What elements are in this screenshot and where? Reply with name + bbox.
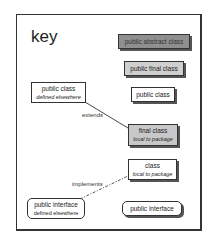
- public-interface-box: public interface: [122, 201, 182, 216]
- public-abstract-class-label: public abstract class: [125, 38, 184, 46]
- class-local-label: class: [145, 162, 160, 170]
- public-interface-label: public interface: [130, 205, 174, 213]
- class-local-sublabel: local to package: [133, 170, 173, 178]
- public-class-label: public class: [136, 91, 170, 99]
- public-class-box: public class: [131, 87, 175, 102]
- extends-label: extends: [82, 112, 103, 118]
- implements-label: implements: [72, 181, 103, 187]
- public-abstract-class-box: public abstract class: [118, 34, 190, 49]
- public-interface-defined-elsewhere-sublabel: defined elsewhere: [34, 209, 79, 217]
- public-class-defined-elsewhere-box: public class defined elsewhere: [31, 82, 86, 103]
- public-interface-defined-elsewhere-box: public interface defined elsewhere: [27, 198, 85, 219]
- public-interface-defined-elsewhere-label: public interface: [34, 201, 78, 209]
- final-class-local-label: final class: [139, 127, 168, 135]
- final-class-local-sublabel: local to package: [133, 135, 173, 143]
- final-class-local-box: final class local to package: [128, 124, 178, 146]
- class-local-box: class local to package: [128, 159, 177, 180]
- public-class-defined-elsewhere-sublabel: defined elsewhere: [36, 93, 81, 101]
- public-final-class-box: public final class: [124, 61, 184, 76]
- public-class-defined-elsewhere-label: public class: [42, 85, 76, 93]
- implements-line: [80, 176, 128, 199]
- public-final-class-label: public final class: [130, 65, 177, 73]
